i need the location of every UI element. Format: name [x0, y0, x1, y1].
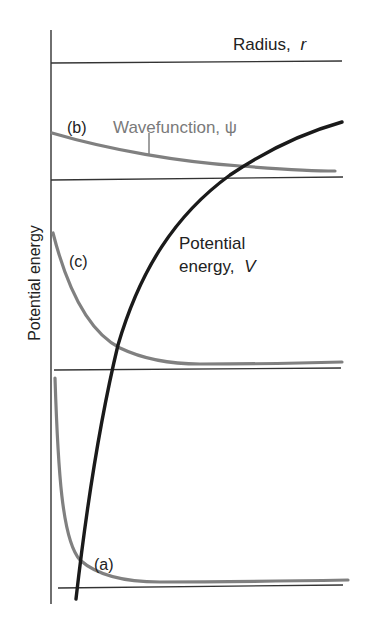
diagram-canvas: Radius, r (b) Wavefunction, ψ Potential … [0, 0, 377, 623]
potential-label-line1: Potential [179, 234, 245, 253]
potential-energy-curve [76, 122, 342, 599]
baseline-b [51, 177, 343, 180]
baseline-a [58, 585, 343, 588]
wavefunction-a-curve [55, 378, 348, 582]
wavefunction-label: Wavefunction, ψ [113, 118, 237, 137]
radius-label: Radius, r [233, 35, 307, 54]
potential-label-line2: energy, V [179, 257, 257, 276]
baseline-c [54, 368, 341, 370]
label-c: (c) [69, 253, 88, 270]
radius-axis-line [51, 61, 342, 63]
y-axis-label: Potential energy [26, 225, 43, 341]
label-a: (a) [94, 556, 114, 573]
label-b: (b) [67, 119, 87, 136]
